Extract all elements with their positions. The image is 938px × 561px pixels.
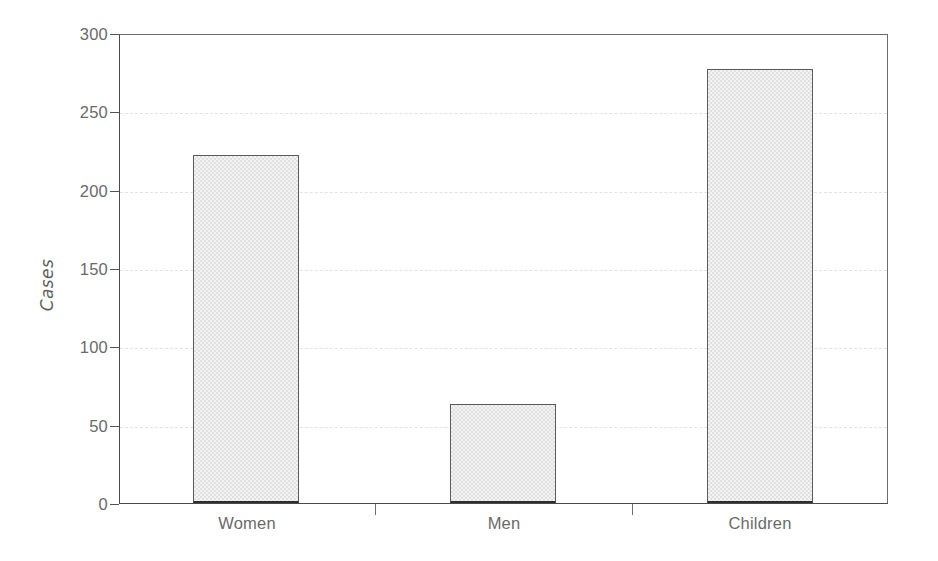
xtick-label-women: Women [218,514,276,533]
plot-area [119,34,888,504]
ytick-mark-200 [110,191,119,192]
xtick-label-children: Children [728,514,791,533]
bar-women [193,155,299,503]
ytick-mark-100 [110,347,119,348]
ytick-mark-50 [110,426,119,427]
ytick-mark-250 [110,112,119,113]
ytick-label-0: 0 [16,495,108,514]
bar-chart: 300 250 200 150 100 50 0 Cases Women Men… [0,0,938,561]
ytick-label-300: 300 [16,25,108,44]
y-axis-title: Cases [37,259,57,311]
ytick-mark-300 [110,34,119,35]
ytick-label-150: 150 [16,260,108,279]
ytick-label-200: 200 [16,182,108,201]
ytick-label-100: 100 [16,338,108,357]
bar-children [707,69,813,503]
ytick-mark-0 [110,504,119,505]
xtick-mark-2 [632,504,633,515]
ytick-label-50: 50 [16,417,108,436]
ytick-mark-150 [110,269,119,270]
xtick-label-men: Men [488,514,521,533]
axis-baseline [119,503,888,504]
ytick-label-250: 250 [16,103,108,122]
xtick-mark-1 [375,504,376,515]
bar-men [450,404,556,503]
